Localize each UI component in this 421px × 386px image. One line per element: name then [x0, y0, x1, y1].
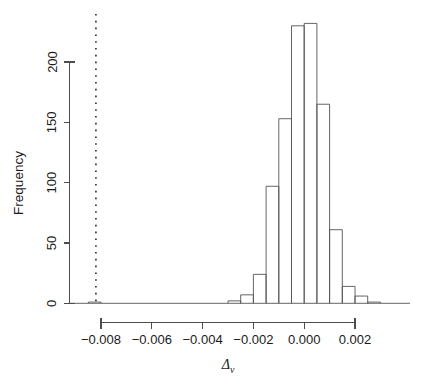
- plot-canvas: 050100150200 Frequency −0.008−0.006−0.00…: [0, 0, 421, 386]
- x-axis-tick-label: −0.004: [183, 332, 223, 347]
- x-axis-tick-label: −0.002: [233, 332, 273, 347]
- y-axis-title: Frequency: [11, 151, 26, 215]
- histogram-figure: 050100150200 Frequency −0.008−0.006−0.00…: [0, 0, 421, 386]
- x-axis-title-subscript: v: [230, 364, 235, 375]
- y-axis-tick-label: 150: [45, 111, 60, 133]
- x-axis-title-delta: Δ: [221, 357, 230, 372]
- x-axis-tick-label: 0.000: [288, 332, 321, 347]
- y-axis-tick-label: 200: [45, 51, 60, 73]
- y-axis-tick-label: 50: [45, 236, 60, 250]
- figure-background: [0, 0, 421, 386]
- x-axis-tick-label: 0.002: [339, 332, 372, 347]
- x-axis-tick-label: −0.008: [81, 332, 121, 347]
- x-axis-tick-label: −0.006: [132, 332, 172, 347]
- y-axis-tick-label: 0: [45, 300, 60, 307]
- y-axis-tick-label: 100: [45, 172, 60, 194]
